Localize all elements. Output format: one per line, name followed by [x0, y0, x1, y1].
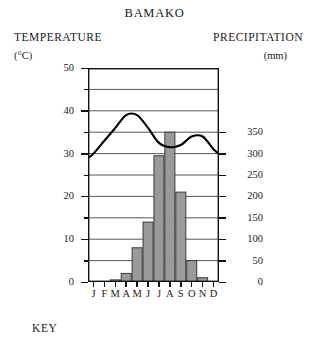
month-tick — [147, 282, 149, 287]
temperature-tick-label: 30 — [40, 149, 74, 159]
axis-tick — [84, 132, 89, 134]
axis-tick — [219, 153, 226, 155]
climate-chart: BAMAKO TEMPERATURE (°C) PRECIPITATION (m… — [0, 0, 309, 345]
axis-tick — [81, 239, 88, 241]
month-tick — [213, 282, 215, 287]
axis-tick — [84, 217, 89, 219]
axis-tick — [81, 282, 88, 284]
month-tick — [136, 282, 138, 287]
month-tick — [180, 282, 182, 287]
month-tick — [202, 282, 204, 287]
month-tick — [191, 282, 193, 287]
axis-tick — [219, 196, 226, 198]
temperature-tick-label: 20 — [40, 191, 74, 201]
month-tick — [93, 282, 95, 287]
axis-tick — [81, 196, 88, 198]
month-label: D — [207, 288, 221, 299]
temperature-tick-label: 0 — [40, 277, 74, 287]
precipitation-tick-label: 50 — [229, 256, 263, 266]
precipitation-tick-label: 350 — [229, 127, 263, 137]
month-tick — [158, 282, 160, 287]
precipitation-tick-label: 300 — [229, 149, 263, 159]
axis-tick — [219, 260, 226, 262]
axis-tick-layer: 01020304050050100150200250300350JFMAMJJA… — [0, 0, 309, 345]
temperature-tick-label: 40 — [40, 106, 74, 116]
month-tick — [115, 282, 117, 287]
axis-tick — [84, 175, 89, 177]
precipitation-tick-label: 200 — [229, 191, 263, 201]
month-tick — [104, 282, 106, 287]
temperature-tick-label: 50 — [40, 63, 74, 73]
axis-tick — [84, 260, 89, 262]
month-tick — [169, 282, 171, 287]
axis-tick — [219, 217, 226, 219]
month-tick — [125, 282, 127, 287]
axis-tick — [81, 110, 88, 112]
precipitation-tick-label: 250 — [229, 170, 263, 180]
axis-tick — [219, 239, 226, 241]
precipitation-tick-label: 100 — [229, 234, 263, 244]
key-label: KEY — [32, 322, 57, 334]
axis-tick — [81, 68, 88, 70]
axis-tick — [84, 89, 89, 91]
precipitation-tick-label: 150 — [229, 213, 263, 223]
axis-tick — [219, 282, 226, 284]
axis-tick — [219, 132, 226, 134]
temperature-tick-label: 10 — [40, 234, 74, 244]
axis-tick — [219, 175, 226, 177]
precipitation-tick-label: 0 — [229, 277, 263, 287]
axis-tick — [81, 153, 88, 155]
